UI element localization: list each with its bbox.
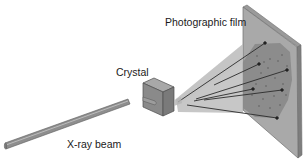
x-ray-diffraction-diagram: Photographic film Crystal X-ray beam (0, 0, 307, 161)
diffracted-cone (176, 44, 243, 113)
x-ray-beam-label: X-ray beam (67, 139, 121, 150)
photographic-film-label: Photographic film (165, 17, 246, 28)
crystal (143, 78, 174, 116)
crystal-label: Crystal (116, 67, 149, 78)
diagram-canvas (0, 0, 307, 161)
